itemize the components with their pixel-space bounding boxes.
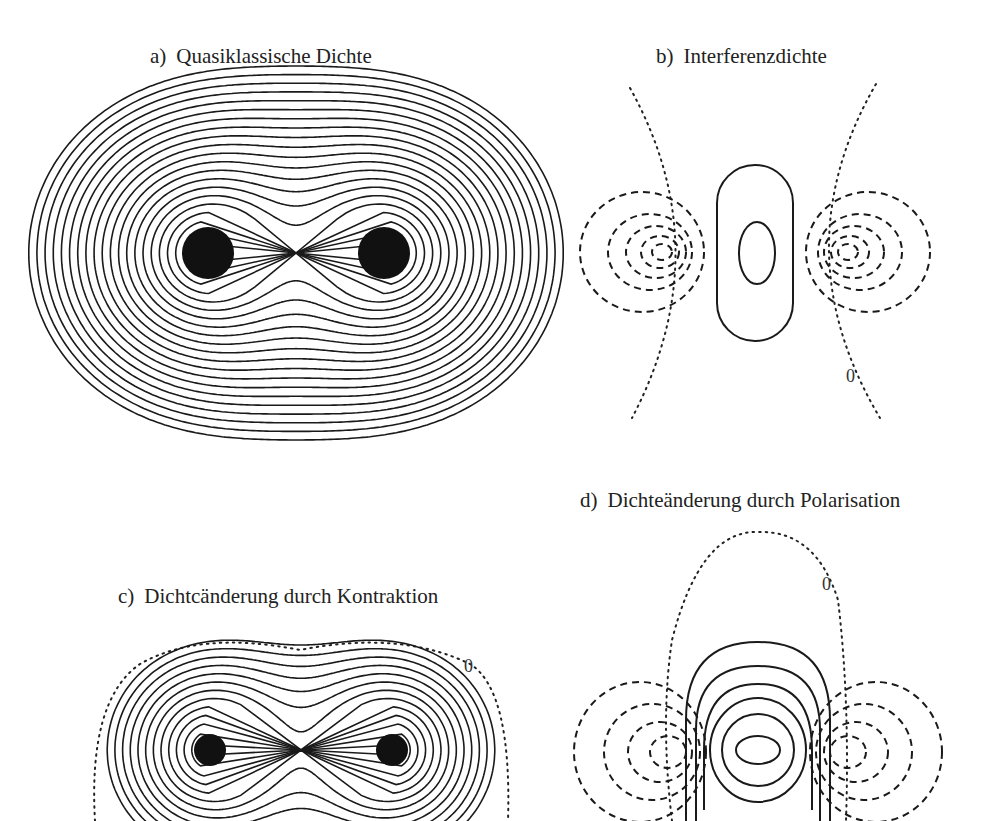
panel-c-contour-plot: 0: [0, 440, 560, 821]
svg-text:0: 0: [464, 656, 473, 676]
panel-b: b)Interferenzdichte 0: [560, 0, 994, 440]
svg-text:0: 0: [846, 366, 855, 386]
svg-text:0: 0: [822, 574, 831, 594]
panel-d-contour-plot: 0: [560, 440, 994, 821]
panel-a-contour-plot: [0, 0, 560, 440]
panel-c: c)Dichtcänderung durch Kontraktion 0: [0, 440, 560, 821]
panel-a: a)Quasiklassische Dichte: [0, 0, 560, 440]
panel-b-contour-plot: 0: [560, 0, 994, 440]
panel-d: d)Dichteänderung durch Polarisation 0: [560, 440, 994, 821]
